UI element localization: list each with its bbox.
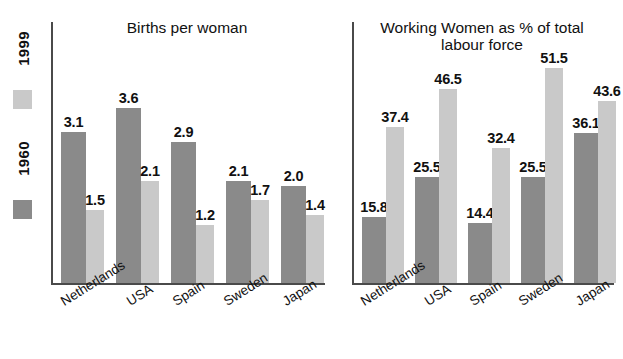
bar-group-usa: 25.5 46.5 <box>415 43 461 283</box>
legend-swatch-1999 <box>13 90 32 109</box>
bar-value-netherlands-1999: 37.4 <box>381 109 408 125</box>
bar-group-netherlands: 15.8 37.4 <box>362 43 408 283</box>
bar-value-usa-1999: 46.5 <box>434 71 461 87</box>
bar-group-japan: 2.0 1.4 <box>281 76 329 283</box>
bar-group-spain: 2.9 1.2 <box>171 76 219 283</box>
bar-netherlands-1960: 3.1 <box>61 132 86 283</box>
bar-sweden-1960: 2.1 <box>226 181 251 283</box>
legend-label-1960: 1960 <box>15 141 32 176</box>
bar-netherlands-1999: 37.4 <box>386 127 404 283</box>
bar-value-usa-1960: 3.6 <box>119 90 139 106</box>
bar-group-sweden: 2.1 1.7 <box>226 76 274 283</box>
x-label-usa: USA <box>422 281 453 308</box>
bar-group-sweden: 25.5 51.5 <box>521 43 567 283</box>
bar-netherlands-1960: 15.8 <box>362 217 386 283</box>
bar-value-japan-1960: 36.1 <box>572 115 599 131</box>
bar-spain-1999: 32.4 <box>492 148 510 283</box>
bar-group-usa: 3.6 2.1 <box>116 76 164 283</box>
bar-japan-1999: 1.4 <box>306 215 324 283</box>
bar-value-japan-1960: 2.0 <box>284 168 304 184</box>
bar-value-spain-1999: 32.4 <box>487 130 514 146</box>
bar-value-netherlands-1999: 1.5 <box>85 192 105 208</box>
bar-value-usa-1999: 2.1 <box>140 163 160 179</box>
bar-usa-1999: 2.1 <box>141 181 159 283</box>
bar-spain-1999: 1.2 <box>196 225 214 283</box>
bar-value-spain-1999: 1.2 <box>195 207 215 223</box>
chart-title-births: Births per woman <box>52 19 322 36</box>
bar-spain-1960: 14.4 <box>468 223 492 283</box>
bar-value-spain-1960: 2.9 <box>174 124 194 140</box>
bar-value-sweden-1960: 2.1 <box>229 163 249 179</box>
bar-sweden-1960: 25.5 <box>521 177 545 283</box>
x-label-usa: USA <box>124 281 155 308</box>
bar-value-japan-1999: 1.4 <box>305 197 325 213</box>
bar-value-netherlands-1960: 3.1 <box>64 114 84 130</box>
bar-japan-1960: 36.1 <box>574 133 598 283</box>
bar-japan-1999: 43.6 <box>598 101 616 283</box>
legend-label-1999: 1999 <box>15 31 32 66</box>
bar-value-spain-1960: 14.4 <box>466 205 493 221</box>
bar-value-usa-1960: 25.5 <box>413 159 440 175</box>
bar-group-spain: 14.4 32.4 <box>468 43 514 283</box>
bar-value-sweden-1999: 51.5 <box>540 50 567 66</box>
plot-area-working: 15.8 37.4 25.5 46.5 14.4 32.4 <box>354 43 614 283</box>
bar-sweden-1999: 51.5 <box>545 68 563 283</box>
chart-births-per-woman: Births per woman 3.1 1.5 3.6 2.1 2.9 <box>40 0 340 359</box>
bar-value-sweden-1960: 25.5 <box>519 159 546 175</box>
bar-value-japan-1999: 43.6 <box>593 83 620 99</box>
chart-working-women: Working Women as % of total labour force… <box>341 0 623 359</box>
bar-value-netherlands-1960: 15.8 <box>360 199 387 215</box>
bar-japan-1960: 2.0 <box>281 186 306 283</box>
bar-spain-1960: 2.9 <box>171 142 196 283</box>
bar-usa-1999: 46.5 <box>439 89 457 283</box>
bar-group-netherlands: 3.1 1.5 <box>61 76 109 283</box>
bar-value-sweden-1999: 1.7 <box>250 182 270 198</box>
plot-area-births: 3.1 1.5 3.6 2.1 2.9 1.2 <box>53 76 325 283</box>
bar-group-japan: 36.1 43.6 <box>574 43 620 283</box>
legend-swatch-1960 <box>13 200 32 219</box>
